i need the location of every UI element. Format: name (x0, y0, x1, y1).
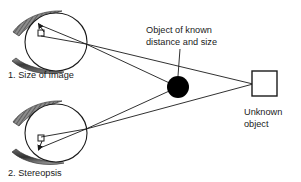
unknown-object-label-line-2: object (244, 119, 269, 129)
eye-bottom-eyeball-icon (25, 104, 87, 162)
known-object-marker-icon (167, 76, 189, 98)
eye-bottom-group: 2. Stereopsis (8, 101, 87, 178)
eye-top-label: 1. Size of image (8, 70, 74, 80)
eye-bottom-label: 2. Stereopsis (8, 168, 62, 178)
known-object-label-line-1: Object of known (146, 25, 212, 35)
ray-top-eye-to-known-object (86, 44, 178, 87)
eye-bottom-retinal-image-icon (38, 135, 44, 141)
unknown-object-group: Unknown object (244, 71, 282, 129)
unknown-object-box-icon (252, 71, 277, 96)
known-object-leader-line (178, 49, 180, 76)
unknown-object-label-line-1: Unknown (244, 107, 282, 117)
diagram-svg: 1. Size of image 2. Stereopsis (0, 0, 301, 182)
eye-top-group: 1. Size of image (8, 11, 87, 80)
eye-top-eyeball-icon (25, 13, 87, 71)
known-object-label-line-2: distance and size (146, 37, 217, 47)
known-object-group: Object of known distance and size (146, 25, 217, 98)
ray-top-eye-to-unknown-object (86, 44, 253, 84)
diagram-canvas: 1. Size of image 2. Stereopsis (0, 0, 301, 182)
